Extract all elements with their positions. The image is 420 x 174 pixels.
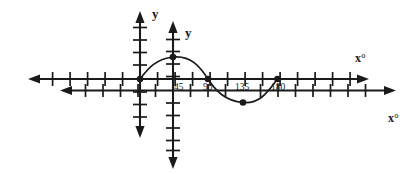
graph-figure: y x° <box>0 0 420 174</box>
tick-label-180: 180 <box>271 82 286 92</box>
secondary-axis-group: y x° <box>60 21 399 169</box>
y-axis-secondary-label: y <box>185 25 192 40</box>
primary-y-axis-top-arrow <box>135 11 144 23</box>
secondary-x-axis <box>60 86 396 95</box>
point-45-degrees <box>170 54 177 61</box>
coordinate-plot: y x° <box>0 0 420 174</box>
primary-x-axis-left-arrow <box>28 74 40 83</box>
secondary-y-axis-bottom-arrow <box>168 157 177 169</box>
secondary-y-axis-top-arrow <box>168 21 177 33</box>
point-135-degrees <box>240 99 247 106</box>
primary-y-axis-bottom-arrow <box>135 126 144 138</box>
x-axis-secondary-label: x° <box>388 111 399 125</box>
tick-label-90: 90 <box>203 82 213 92</box>
primary-x-axis-right-arrow <box>357 74 369 83</box>
secondary-x-axis-right-arrow <box>384 86 396 95</box>
tick-label-45: 45 <box>174 82 184 92</box>
secondary-y-axis <box>168 21 177 169</box>
tick-label-135: 135 <box>235 82 250 92</box>
primary-axis-group: y x° <box>28 6 369 138</box>
point-0-degrees <box>137 76 144 83</box>
primary-x-axis <box>28 74 369 83</box>
x-axis-primary-label: x° <box>355 51 366 65</box>
secondary-x-axis-left-arrow <box>60 86 72 95</box>
y-axis-primary-label: y <box>152 6 159 21</box>
